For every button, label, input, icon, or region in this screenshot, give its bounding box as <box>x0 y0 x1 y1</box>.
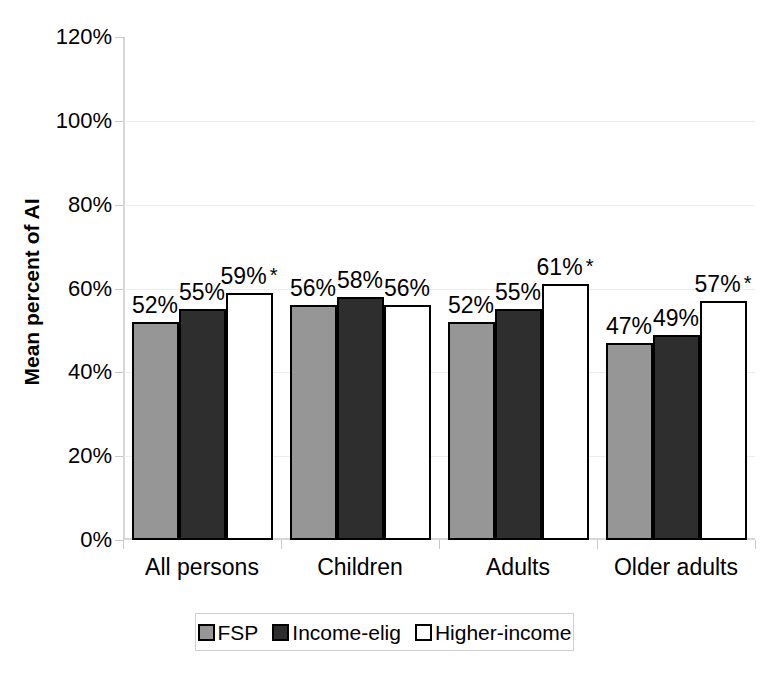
significance-asterisk: * <box>744 272 752 294</box>
bar-adults-income-elig[interactable] <box>495 309 542 540</box>
significance-asterisk: * <box>270 264 278 286</box>
gridline <box>123 121 755 122</box>
bar-value-label: 49% <box>653 307 699 330</box>
y-axis-tick-label: 80% <box>24 194 112 216</box>
bar-value-text: 49% <box>653 305 699 331</box>
bar-value-text: 58% <box>337 267 383 293</box>
y-axis-tick-label: 40% <box>24 361 112 383</box>
x-axis-tickmark <box>597 540 598 549</box>
y-axis-tickmark <box>115 121 124 122</box>
bar-older-adults-higher-income[interactable] <box>700 301 747 540</box>
x-axis-tickmark <box>123 540 124 549</box>
bar-value-text: 56% <box>290 275 336 301</box>
bar-value-label: 59%* <box>221 265 278 288</box>
bar-children-higher-income[interactable] <box>384 305 431 540</box>
bar-adults-fsp[interactable] <box>448 322 495 540</box>
y-axis-tickmark <box>115 37 124 38</box>
significance-asterisk: * <box>586 255 594 277</box>
bar-value-text: 52% <box>448 292 494 318</box>
bar-value-label: 55% <box>179 281 225 304</box>
legend-swatch-icon <box>272 624 289 641</box>
bar-all-persons-higher-income[interactable] <box>226 293 273 540</box>
bar-value-label: 55% <box>495 281 541 304</box>
legend-label: Higher-income <box>435 622 572 643</box>
legend-swatch-icon <box>415 624 432 641</box>
x-axis-tickmark <box>755 540 756 549</box>
y-axis-tick-label: 120% <box>24 26 112 48</box>
bar-value-text: 52% <box>132 292 178 318</box>
legend-item-fsp[interactable]: FSP <box>198 622 259 643</box>
bar-value-text: 61% <box>537 254 583 280</box>
plot-area: 52%55%59%*56%58%56%52%55%61%*47%49%57%* <box>123 37 755 540</box>
bar-value-label: 52% <box>448 294 494 317</box>
x-axis-category-label: Adults <box>439 556 597 579</box>
bar-older-adults-income-elig[interactable] <box>653 335 700 540</box>
y-axis-tick-label: 100% <box>24 110 112 132</box>
bar-value-text: 57% <box>695 271 741 297</box>
y-axis-tickmark <box>115 205 124 206</box>
bar-value-label: 61%* <box>537 256 594 279</box>
x-axis-category-label: All persons <box>123 556 281 579</box>
legend: FSPIncome-eligHigher-income <box>195 613 574 651</box>
bar-value-label: 52% <box>132 294 178 317</box>
legend-item-higher-income[interactable]: Higher-income <box>415 622 572 643</box>
bar-children-fsp[interactable] <box>290 305 337 540</box>
bar-older-adults-fsp[interactable] <box>606 343 653 540</box>
y-axis-tickmark <box>115 372 124 373</box>
bar-all-persons-income-elig[interactable] <box>179 309 226 540</box>
legend-label: Income-elig <box>292 622 401 643</box>
bar-chart: Mean percent of AI 120%100%80%60%40%20%0… <box>0 0 769 684</box>
x-axis-tickmark <box>439 540 440 549</box>
y-axis-tick-label: 20% <box>24 445 112 467</box>
bar-value-text: 47% <box>606 313 652 339</box>
bar-adults-higher-income[interactable] <box>542 284 589 540</box>
y-axis-tick-label: 0% <box>24 529 112 551</box>
gridline <box>123 205 755 206</box>
bar-value-label: 56% <box>384 277 430 300</box>
bar-value-text: 55% <box>179 279 225 305</box>
y-axis-tickmark <box>115 289 124 290</box>
bar-value-label: 56% <box>290 277 336 300</box>
bar-value-label: 57%* <box>695 273 752 296</box>
bar-value-text: 55% <box>495 279 541 305</box>
bar-value-text: 56% <box>384 275 430 301</box>
bar-value-label: 58% <box>337 269 383 292</box>
bar-all-persons-fsp[interactable] <box>132 322 179 540</box>
bar-value-text: 59% <box>221 263 267 289</box>
y-axis-tick-labels: 120%100%80%60%40%20%0% <box>24 0 112 684</box>
x-axis-category-label: Children <box>281 556 439 579</box>
bar-children-income-elig[interactable] <box>337 297 384 540</box>
x-axis-category-label: Older adults <box>597 556 755 579</box>
legend-label: FSP <box>218 622 259 643</box>
y-axis-tick-label: 60% <box>24 278 112 300</box>
legend-swatch-icon <box>198 624 215 641</box>
y-axis-tickmark <box>115 456 124 457</box>
bar-value-label: 47% <box>606 315 652 338</box>
legend-item-income-elig[interactable]: Income-elig <box>272 622 401 643</box>
x-axis-tickmark <box>281 540 282 549</box>
